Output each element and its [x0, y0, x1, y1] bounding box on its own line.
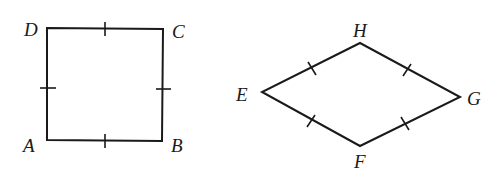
diagram-canvas: D C A B H E G F	[0, 0, 500, 178]
square-outline	[47, 28, 163, 141]
vertex-label-e: E	[235, 84, 248, 105]
vertex-label-h: H	[352, 20, 368, 41]
square-ABCD: D C A B	[21, 19, 185, 156]
vertex-label-d: D	[23, 19, 38, 40]
rhombus-outline	[262, 43, 460, 146]
vertex-label-f: F	[353, 151, 366, 172]
vertex-label-c: C	[172, 21, 185, 42]
rhombus-EFGH: H E G F	[235, 20, 481, 172]
vertex-label-g: G	[467, 88, 481, 109]
vertex-label-b: B	[171, 135, 183, 156]
vertex-label-a: A	[21, 135, 35, 156]
